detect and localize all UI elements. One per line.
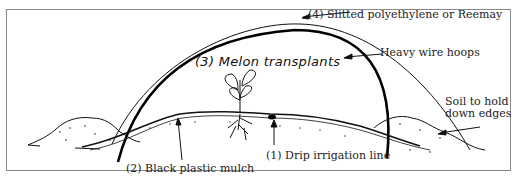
mulch-label: (2) Black plastic mulch [126, 163, 254, 175]
melon-transplant [225, 70, 255, 140]
cover-label: (4) Slitted polyethylene or Reemay [308, 9, 502, 21]
row-cover-illustration [0, 0, 523, 181]
hoops-label: Heavy wire hoops [380, 47, 480, 59]
plastic-cover-line [112, 24, 470, 150]
wire-hoop [118, 30, 389, 158]
right-soil-mound [374, 116, 485, 150]
transplants-label: (3) Melon transplants [195, 54, 340, 69]
wire-hoop-thick [120, 30, 410, 160]
drip-label: (1) Drip irrigation line [266, 150, 390, 162]
drip-line [268, 115, 276, 120]
soil-label-line2: down edges [445, 108, 511, 120]
left-soil-mound [28, 118, 140, 146]
hoop-arc [118, 30, 387, 162]
